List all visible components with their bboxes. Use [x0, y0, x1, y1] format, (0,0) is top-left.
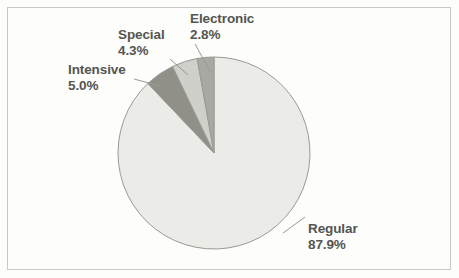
pie-label-electronic-name: Electronic [190, 11, 254, 27]
pie-chart-area: Electronic 2.8% Special 4.3% Intensive 5… [0, 0, 459, 278]
pie-label-regular-value: 87.9% [308, 237, 358, 253]
pie-label-special-name: Special [118, 27, 165, 43]
pie-label-special: Special 4.3% [118, 27, 165, 58]
pie-label-regular-name: Regular [308, 221, 358, 237]
leader-line-regular [283, 217, 305, 233]
pie-label-regular: Regular 87.9% [308, 221, 358, 252]
pie-label-intensive-name: Intensive [68, 62, 126, 78]
pie-label-intensive: Intensive 5.0% [68, 62, 126, 93]
pie-chart-screenshot: Electronic 2.8% Special 4.3% Intensive 5… [0, 0, 459, 278]
pie-label-electronic: Electronic 2.8% [190, 11, 254, 42]
pie-label-electronic-value: 2.8% [190, 27, 254, 43]
pie-label-intensive-value: 5.0% [68, 78, 126, 94]
pie-label-special-value: 4.3% [118, 43, 165, 59]
